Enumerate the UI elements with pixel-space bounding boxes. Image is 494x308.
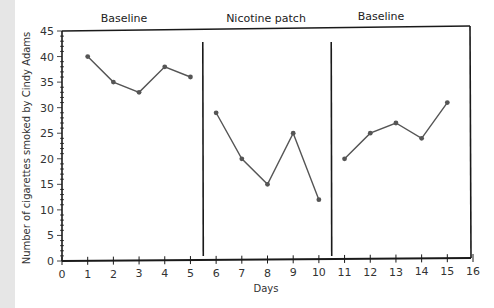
data-point-marker	[291, 131, 296, 136]
x-tick-label: 12	[363, 266, 377, 279]
series-line-1	[88, 57, 191, 93]
data-point-marker	[239, 156, 244, 161]
data-series	[85, 54, 449, 202]
x-tick-label: 5	[187, 267, 194, 280]
frame-right	[470, 26, 471, 258]
x-tick-label: 15	[440, 265, 454, 278]
y-tick-label: 40	[40, 51, 54, 64]
x-tick-label: 7	[238, 267, 245, 280]
phase-label-baseline-2: Baseline	[358, 10, 405, 23]
data-point-marker	[214, 110, 219, 115]
y-axis-title: Number of cigarettes smoked by Cindy Ada…	[21, 32, 32, 265]
data-point-marker	[265, 182, 270, 187]
data-point-marker	[111, 80, 116, 85]
frame-top	[62, 26, 470, 31]
data-point-marker	[188, 75, 193, 80]
x-tick-label: 4	[161, 267, 168, 280]
y-tick-label: 15	[40, 178, 54, 191]
x-tick-label: 0	[59, 268, 66, 281]
x-tick-label: 14	[415, 265, 429, 278]
x-tick-label: 2	[110, 268, 117, 281]
data-point-marker	[394, 121, 399, 126]
phase-line-2	[331, 42, 332, 256]
y-axis: 051015202530354045	[40, 25, 64, 268]
x-axis-title: Days	[254, 283, 279, 294]
x-axis-line	[62, 258, 471, 261]
x-tick-label: 16	[466, 265, 480, 278]
x-tick-label: 9	[290, 266, 297, 279]
y-tick-label: 10	[40, 204, 54, 217]
data-point-marker	[316, 197, 321, 202]
y-tick-label: 5	[47, 229, 54, 242]
x-tick-label: 1	[84, 268, 91, 281]
x-tick-label: 6	[213, 267, 220, 280]
x-tick-label: 10	[312, 266, 326, 279]
data-point-marker	[342, 156, 347, 161]
x-tick-label: 3	[136, 267, 143, 280]
x-tick-label: 8	[264, 267, 271, 280]
phase-line-1	[203, 42, 204, 256]
x-tick-label: 13	[389, 266, 403, 279]
data-point-marker	[419, 136, 424, 141]
y-tick-label: 0	[47, 255, 54, 268]
data-point-marker	[368, 131, 373, 136]
y-tick-label: 35	[40, 76, 54, 89]
data-point-marker	[445, 100, 450, 105]
data-point-marker	[137, 90, 142, 95]
data-point-marker	[85, 54, 90, 59]
y-tick-label: 45	[40, 25, 54, 38]
phase-change-lines	[203, 42, 332, 256]
y-tick-label: 30	[40, 102, 54, 115]
single-subject-line-chart: 051015202530354045 012345678910111213141…	[0, 0, 494, 308]
data-point-marker	[162, 64, 167, 69]
phase-label-nicotine-patch: Nicotine patch	[226, 12, 306, 25]
y-tick-label: 20	[40, 153, 54, 166]
plot-frame	[62, 26, 471, 261]
series-line-3	[345, 103, 448, 159]
y-tick-label: 25	[40, 127, 54, 140]
phase-label-baseline-1: Baseline	[101, 12, 148, 25]
x-tick-label: 11	[338, 266, 352, 279]
